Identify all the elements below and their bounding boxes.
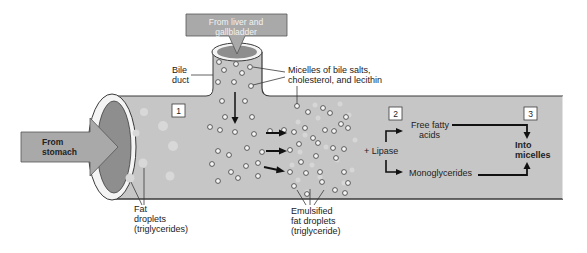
svg-text:duct: duct [172, 75, 190, 85]
svg-text:(triglyceride): (triglyceride) [291, 226, 341, 236]
svg-text:3: 3 [528, 109, 533, 119]
into-micelles-label-line1: Into [515, 140, 532, 150]
svg-text:cholesterol, and lecithin: cholesterol, and lecithin [288, 75, 382, 85]
bile-duct-callout: Bile duct [172, 65, 213, 85]
step-3-box: 3 [524, 107, 537, 120]
lipase-label: + Lipase [364, 146, 398, 156]
svg-text:(triglycerides): (triglycerides) [134, 224, 188, 234]
step-1-box: 1 [172, 104, 185, 117]
svg-text:2: 2 [393, 109, 398, 119]
from-liver-arrow: From liver and gallbladder [186, 14, 287, 54]
svg-text:fat droplets: fat droplets [291, 216, 336, 226]
free-fatty-acids-label-line1: Free fatty [411, 120, 450, 130]
svg-text:1: 1 [176, 106, 181, 116]
svg-text:Bile: Bile [172, 65, 187, 75]
into-micelles-label-line2: micelles [515, 150, 551, 160]
from-stomach-label-line1: From [42, 137, 64, 147]
svg-text:Fat: Fat [134, 204, 148, 214]
svg-text:Emulsified: Emulsified [291, 206, 333, 216]
svg-text:droplets: droplets [134, 214, 167, 224]
fat-digestion-diagram: From liver and gallbladder From stomach [0, 0, 587, 253]
free-fatty-acids-label-line2: acids [419, 130, 441, 140]
svg-text:Micelles of bile salts,: Micelles of bile salts, [288, 65, 371, 75]
step-2-box: 2 [389, 107, 402, 120]
from-stomach-label-line2: stomach [42, 147, 77, 157]
from-liver-label-line2: gallbladder [215, 27, 257, 37]
from-liver-label-line1: From liver and [209, 17, 264, 27]
monoglycerides-label: Monoglycerides [409, 168, 473, 178]
